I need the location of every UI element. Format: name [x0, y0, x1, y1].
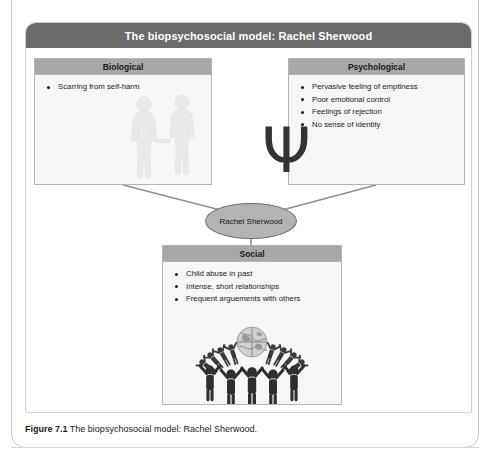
- list-item-text: Feelings of rejection: [312, 107, 382, 116]
- diagram-title: The biopsychosocial model: Rachel Sherwo…: [125, 30, 372, 42]
- list-item: Child abuse in past: [173, 268, 341, 281]
- box-header-psychological: Psychological: [289, 59, 464, 75]
- list-item: Pervasive feeling of emptiness: [299, 81, 464, 94]
- bullet-dot-icon: [175, 298, 178, 301]
- globe-with-people-ring-icon: [186, 324, 318, 405]
- box-header-label-psychological: Psychological: [348, 62, 405, 72]
- box-header-biological: Biological: [35, 59, 211, 75]
- list-item-text: Poor emotional control: [312, 95, 390, 104]
- box-header-social: Social: [163, 246, 341, 262]
- domain-box-psychological: Psychological Pervasive feeling of empti…: [288, 58, 465, 185]
- figure-caption-label: Figure 7.1: [25, 424, 68, 434]
- central-node-label: Rachel Sherwood: [219, 217, 282, 226]
- diagram-title-bar: The biopsychosocial model: Rachel Sherwo…: [26, 23, 471, 48]
- list-item-text: Frequent arguements with others: [186, 294, 300, 303]
- bullet-list-psychological: Pervasive feeling of emptiness Poor emot…: [289, 75, 464, 131]
- box-header-label-biological: Biological: [103, 62, 144, 72]
- box-body-biological: Scarring from self-harm: [35, 75, 211, 184]
- bullet-dot-icon: [175, 285, 178, 288]
- bullet-list-social: Child abuse in past Intense, short relat…: [163, 262, 341, 306]
- domain-box-biological: Biological Scarring from: [34, 58, 212, 185]
- diagram-panel: The biopsychosocial model: Rachel Sherwo…: [25, 22, 472, 413]
- box-body-psychological: Pervasive feeling of emptiness Poor emot…: [289, 75, 464, 184]
- list-item-text: Scarring from self-harm: [58, 82, 139, 91]
- two-human-figures-icon: [119, 92, 205, 185]
- list-item: Scarring from self-harm: [45, 81, 211, 94]
- figure-caption-text: The biopsychosocial model: Rachel Sherwo…: [68, 424, 257, 434]
- domain-box-social: Social: [162, 245, 342, 405]
- figure-caption: Figure 7.1 The biopsychosocial model: Ra…: [25, 424, 455, 434]
- bullet-list-biological: Scarring from self-harm: [35, 75, 211, 94]
- bullet-dot-icon: [301, 98, 304, 101]
- psi-symbol-icon: Ψ: [262, 120, 311, 182]
- bullet-dot-icon: [175, 273, 178, 276]
- bullet-dot-icon: [47, 86, 50, 89]
- list-item: Poor emotional control: [299, 94, 464, 107]
- list-item: Intense, short relationships: [173, 281, 341, 294]
- list-item-text: Intense, short relationships: [186, 282, 279, 291]
- box-header-label-social: Social: [239, 249, 264, 259]
- list-item-text: Pervasive feeling of emptiness: [312, 82, 418, 91]
- list-item: Feelings of rejection: [299, 106, 464, 119]
- list-item: Frequent arguements with others: [173, 293, 341, 306]
- bullet-dot-icon: [301, 86, 304, 89]
- central-node-rachel-sherwood: Rachel Sherwood: [205, 203, 297, 239]
- list-item-text: No sense of identity: [312, 120, 380, 129]
- box-body-social: Child abuse in past Intense, short relat…: [163, 262, 341, 404]
- list-item: No sense of identity: [299, 119, 464, 132]
- list-item-text: Child abuse in past: [186, 269, 252, 278]
- caption-divider: [11, 447, 479, 448]
